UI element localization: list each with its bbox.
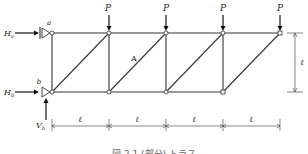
load-label-1: P [104,3,112,13]
diagonal-member-4 [223,33,280,92]
reaction-label-hb: Hb [3,88,14,98]
truss-members [52,33,280,92]
support-a-roller [40,27,50,39]
node-bottom-2 [107,90,111,94]
reaction-hb-arrow [15,90,39,95]
reaction-label-vb: Vb [36,121,45,131]
node-bottom-4 [221,90,225,94]
height-label: ℓ [300,58,304,67]
span-label-2: ℓ [135,115,139,124]
node-bottom-3 [164,90,168,94]
diagonal-member-A [109,33,166,92]
node-top-4 [221,31,225,35]
reaction-vb-arrow [44,98,49,120]
diagonal-member-1 [52,33,109,92]
node-top-2 [107,31,111,35]
span-dimension [52,119,280,131]
reaction-label-ha: Ha [3,29,14,39]
node-top-3 [164,31,168,35]
load-label-3: P [219,3,227,13]
reaction-ha-arrow [15,31,39,36]
load-arrow-1 [107,15,112,31]
figure-caption: 図 2.1 (部分) トラス [112,148,196,154]
span-label-4: ℓ [249,115,253,124]
load-arrow-4 [278,15,283,31]
support-b-pin [42,87,50,97]
support-label-b: b [37,78,42,86]
load-arrow-2 [164,15,169,31]
node-top-5 [278,31,282,35]
load-label-4: P [276,3,284,13]
truss-diagram: P P P P a b Ha Hb Vb A ℓ ℓ ℓ ℓ ℓ 図 2.1 (… [0,0,308,154]
load-label-2: P [162,3,170,13]
load-arrows [107,15,283,31]
span-label-3: ℓ [192,115,196,124]
span-label-1: ℓ [78,115,82,124]
support-label-a: a [47,19,51,27]
load-arrow-3 [221,15,226,31]
member-label-A: A [130,54,137,63]
diagonal-member-3 [166,33,223,92]
